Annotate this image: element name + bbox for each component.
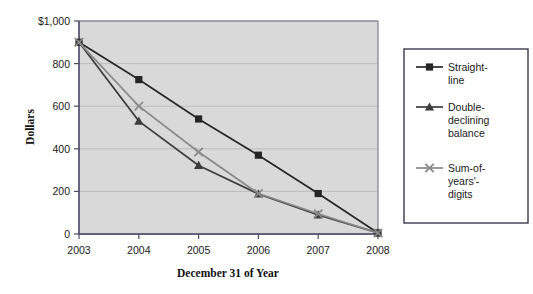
y-tick-label-600: 600	[52, 100, 70, 112]
legend-item-2-label-line3: digits	[448, 188, 473, 200]
legend-item-0-label-line1: Straight-	[448, 61, 488, 73]
x-tick-label-2004: 2004	[127, 244, 151, 256]
depreciation-line-chart: $1,000 800 600 400 200 0 2003 2004 2005 …	[0, 0, 533, 294]
legend-item-2-label-line2: years'-	[448, 175, 480, 187]
square-marker-icon	[426, 63, 433, 70]
x-tick-label-2006: 2006	[247, 244, 271, 256]
square-marker-icon	[195, 115, 202, 122]
x-tick-label-2003: 2003	[67, 244, 91, 256]
legend-item-1-label-line1: Double-	[448, 101, 485, 113]
x-tick-label-2005: 2005	[187, 244, 211, 256]
square-marker-icon	[135, 76, 142, 83]
y-axis-title: Dollars	[24, 109, 36, 145]
y-tick-label-1000: $1,000	[38, 15, 70, 27]
square-marker-icon	[315, 190, 322, 197]
chart-canvas: $1,000 800 600 400 200 0 2003 2004 2005 …	[0, 0, 533, 294]
legend-item-1-label-line3: balance	[448, 127, 485, 139]
x-axis-title: December 31 of Year	[177, 267, 279, 279]
x-axis-ticks	[79, 234, 378, 239]
y-tick-label-400: 400	[52, 143, 70, 155]
x-tick-label-2007: 2007	[307, 244, 331, 256]
legend-item-0-label-line2: line	[448, 74, 465, 86]
y-tick-label-800: 800	[52, 58, 70, 70]
square-marker-icon	[255, 152, 262, 159]
y-tick-label-0: 0	[64, 228, 70, 240]
y-tick-label-200: 200	[52, 185, 70, 197]
x-tick-label-2008: 2008	[366, 244, 390, 256]
plot-area-background	[79, 21, 378, 234]
legend-item-2-label-line1: Sum-of-	[448, 162, 486, 174]
legend-item-1-label-line2: declining	[448, 114, 490, 126]
y-axis-ticks	[74, 21, 79, 234]
